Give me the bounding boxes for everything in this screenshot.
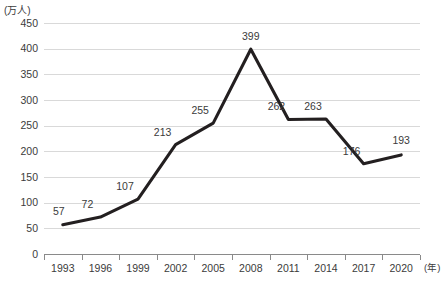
y-axis-unit-label: (万人) bbox=[4, 5, 31, 16]
data-point-value-label: 72 bbox=[82, 198, 94, 210]
chart-background bbox=[0, 0, 445, 281]
data-point-value-label: 255 bbox=[191, 104, 209, 116]
x-axis-tick-label: 1996 bbox=[89, 262, 113, 274]
y-axis-tick-label: 300 bbox=[20, 94, 38, 106]
x-axis-tick-label: 2005 bbox=[202, 262, 226, 274]
data-point-value-label: 263 bbox=[304, 100, 322, 112]
x-axis-tick-label: 2014 bbox=[314, 262, 338, 274]
data-point-value-label: 193 bbox=[392, 134, 410, 146]
y-axis-tick-label: 350 bbox=[20, 68, 38, 80]
x-axis-unit-label: (年) bbox=[424, 262, 440, 273]
x-axis-tick-label: 1999 bbox=[126, 262, 150, 274]
x-axis-tick-label: 2011 bbox=[277, 262, 300, 274]
y-axis-tick-label: 400 bbox=[20, 42, 38, 54]
data-point-value-label: 262 bbox=[268, 100, 286, 112]
y-axis-tick-label: 0 bbox=[32, 248, 38, 260]
y-axis-tick-label: 450 bbox=[20, 17, 38, 29]
x-axis-tick-label: 1993 bbox=[51, 262, 75, 274]
y-axis-tick-label: 50 bbox=[26, 222, 38, 234]
x-axis-tick-label: 2002 bbox=[164, 262, 188, 274]
x-axis-tick-label: 2020 bbox=[390, 262, 414, 274]
y-axis-tick-label: 250 bbox=[20, 119, 38, 131]
data-point-value-label: 57 bbox=[53, 205, 65, 217]
data-point-value-label: 399 bbox=[242, 30, 260, 42]
chart-canvas: (万人) 050100150200250300350400450 1993199… bbox=[0, 0, 445, 281]
y-axis-tick-label: 200 bbox=[20, 145, 38, 157]
line-chart-figure: (万人) 050100150200250300350400450 1993199… bbox=[0, 0, 445, 281]
data-point-value-label: 107 bbox=[116, 180, 134, 192]
x-axis-tick-label: 2008 bbox=[239, 262, 263, 274]
x-axis-tick-label: 2017 bbox=[352, 262, 376, 274]
y-axis-tick-label: 100 bbox=[20, 196, 38, 208]
y-axis-tick-label: 150 bbox=[20, 171, 38, 183]
data-point-value-label: 176 bbox=[343, 145, 361, 157]
data-point-value-label: 213 bbox=[154, 126, 172, 138]
